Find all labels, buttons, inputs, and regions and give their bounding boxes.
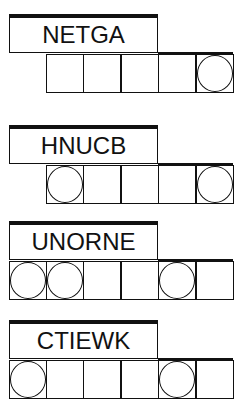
answer-letter-cell[interactable] (158, 54, 196, 93)
answer-letter-cell[interactable] (83, 360, 121, 399)
circle-marker-icon (197, 55, 233, 92)
scrambled-word: NETGA (9, 14, 158, 53)
answer-letter-cell[interactable] (158, 261, 196, 300)
answer-letter-cell[interactable] (121, 54, 159, 93)
answer-letter-cell[interactable] (196, 54, 234, 93)
scrambled-word: CTIEWK (9, 320, 158, 359)
answer-letter-cell[interactable] (158, 165, 196, 204)
answer-letter-cell[interactable] (46, 360, 84, 399)
circle-marker-icon (10, 361, 46, 398)
answer-letter-cell[interactable] (196, 165, 234, 204)
answer-letter-cell[interactable] (83, 165, 121, 204)
scrambled-word: HNUCB (9, 125, 158, 164)
answer-letter-cell[interactable] (196, 261, 234, 300)
answer-letter-cell[interactable] (9, 360, 47, 399)
answer-letter-cell[interactable] (196, 360, 234, 399)
answer-letter-cell[interactable] (83, 261, 121, 300)
circle-marker-icon (159, 262, 195, 299)
answer-letter-cell[interactable] (121, 261, 159, 300)
scrambled-word: UNORNE (9, 221, 158, 260)
answer-letter-cell[interactable] (46, 54, 84, 93)
circle-marker-icon (47, 262, 83, 299)
answer-letter-cell[interactable] (158, 360, 196, 399)
answer-letter-cell[interactable] (46, 165, 84, 204)
answer-letter-cell[interactable] (46, 261, 84, 300)
circle-marker-icon (159, 361, 195, 398)
circle-marker-icon (10, 262, 46, 299)
answer-letter-cell[interactable] (121, 360, 159, 399)
circle-marker-icon (47, 166, 83, 203)
answer-letter-cell[interactable] (121, 165, 159, 204)
answer-letter-cell[interactable] (83, 54, 121, 93)
answer-letter-cell[interactable] (9, 261, 47, 300)
circle-marker-icon (197, 166, 233, 203)
